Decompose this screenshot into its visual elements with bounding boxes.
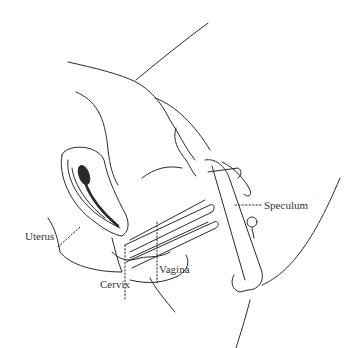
speculum-handle: [205, 160, 262, 292]
label-uterus: Uterus: [25, 231, 54, 242]
label-speculum: Speculum: [264, 200, 308, 211]
anatomy-drawing: [0, 0, 359, 348]
back-outline: [68, 62, 195, 160]
bladder-area: [175, 128, 196, 176]
uterus-outline: [61, 147, 128, 236]
buttock-outline: [155, 98, 210, 150]
uterine-cavity: [76, 164, 92, 186]
right-thigh: [262, 178, 340, 285]
label-cervix: Cervix: [100, 279, 130, 290]
speculum-lower-blade: [126, 222, 218, 268]
speculum-screw: [247, 217, 257, 227]
label-vagina: Vagina: [159, 264, 190, 275]
thigh-outline: [136, 23, 208, 80]
